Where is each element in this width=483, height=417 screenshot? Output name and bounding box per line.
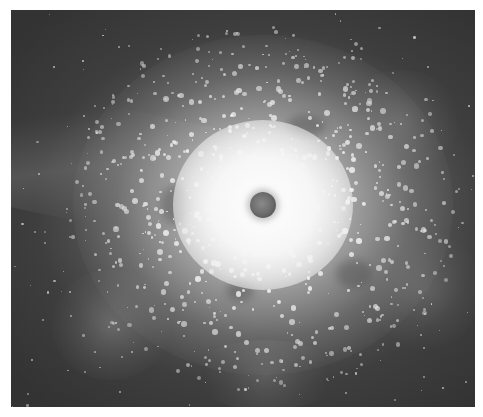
particle bbox=[115, 261, 118, 264]
particle bbox=[49, 14, 50, 15]
particle bbox=[170, 307, 175, 312]
particle bbox=[430, 129, 434, 133]
particle bbox=[357, 232, 359, 234]
particle bbox=[380, 360, 381, 361]
particle bbox=[153, 81, 155, 83]
particle bbox=[181, 321, 187, 327]
particle bbox=[451, 210, 455, 214]
particle bbox=[242, 45, 245, 48]
particle bbox=[412, 149, 416, 153]
particle bbox=[386, 278, 388, 280]
particle bbox=[162, 75, 165, 78]
particle bbox=[154, 207, 158, 211]
particle bbox=[195, 59, 199, 63]
particle bbox=[130, 189, 134, 193]
particle bbox=[397, 304, 399, 306]
particle bbox=[141, 74, 145, 78]
particle bbox=[378, 27, 380, 29]
particle bbox=[229, 326, 233, 330]
particle bbox=[384, 270, 388, 274]
particle bbox=[122, 206, 127, 211]
particle bbox=[366, 108, 371, 113]
particle bbox=[26, 404, 28, 406]
particle bbox=[444, 239, 449, 244]
particle bbox=[47, 291, 49, 293]
particle bbox=[279, 359, 283, 363]
particle bbox=[377, 122, 381, 126]
particle bbox=[289, 51, 290, 52]
particle bbox=[71, 235, 75, 239]
particle bbox=[299, 366, 301, 368]
particle bbox=[421, 274, 424, 277]
particle bbox=[376, 265, 382, 271]
particle bbox=[216, 319, 218, 321]
particle bbox=[242, 92, 247, 97]
particle bbox=[304, 63, 310, 69]
particle bbox=[409, 189, 414, 194]
particle bbox=[153, 92, 156, 95]
particle bbox=[255, 66, 259, 70]
particle bbox=[406, 114, 408, 116]
particle bbox=[137, 137, 140, 140]
particle bbox=[100, 125, 104, 129]
particle bbox=[213, 315, 216, 318]
particle bbox=[23, 188, 24, 189]
particle bbox=[360, 47, 363, 50]
particle bbox=[256, 86, 262, 92]
particle bbox=[44, 231, 46, 233]
particle bbox=[404, 287, 406, 289]
particle bbox=[272, 26, 276, 30]
particle bbox=[21, 223, 23, 225]
particle bbox=[232, 306, 236, 310]
particle bbox=[170, 143, 173, 146]
particle bbox=[69, 219, 72, 222]
particle bbox=[285, 38, 286, 39]
particle bbox=[468, 105, 470, 107]
particle bbox=[105, 29, 106, 30]
particle bbox=[421, 119, 424, 122]
particle bbox=[148, 258, 150, 260]
particle bbox=[157, 346, 159, 348]
particle bbox=[343, 86, 349, 92]
particle bbox=[442, 387, 444, 389]
particle bbox=[38, 173, 40, 175]
particle bbox=[380, 108, 386, 114]
particle bbox=[342, 151, 345, 154]
particle bbox=[223, 73, 226, 76]
particle bbox=[155, 150, 160, 155]
particle bbox=[220, 311, 221, 312]
particle bbox=[313, 341, 317, 345]
particle bbox=[396, 319, 399, 322]
particle bbox=[465, 381, 467, 383]
particle bbox=[98, 269, 101, 272]
particle bbox=[140, 68, 141, 69]
particle bbox=[277, 79, 281, 83]
particle bbox=[288, 95, 291, 98]
particle bbox=[279, 380, 284, 385]
particle bbox=[443, 265, 445, 267]
particle bbox=[440, 260, 442, 262]
particle bbox=[143, 286, 146, 289]
particle bbox=[349, 129, 351, 131]
particle bbox=[84, 166, 88, 170]
particle bbox=[98, 130, 102, 134]
particle bbox=[236, 291, 242, 297]
particle bbox=[109, 252, 112, 255]
particle bbox=[289, 319, 295, 325]
particle bbox=[87, 136, 90, 139]
particle bbox=[225, 32, 228, 35]
particle bbox=[305, 283, 307, 285]
particle bbox=[414, 163, 420, 169]
particle bbox=[379, 161, 380, 162]
particle bbox=[222, 95, 225, 98]
particle bbox=[345, 373, 348, 376]
dark-patch bbox=[336, 260, 372, 288]
particle bbox=[263, 101, 265, 103]
particle bbox=[340, 371, 343, 374]
particle bbox=[378, 169, 381, 172]
particle bbox=[27, 393, 29, 395]
particle bbox=[31, 359, 33, 361]
particle bbox=[376, 90, 379, 93]
particle bbox=[423, 376, 425, 378]
particle bbox=[112, 95, 115, 98]
